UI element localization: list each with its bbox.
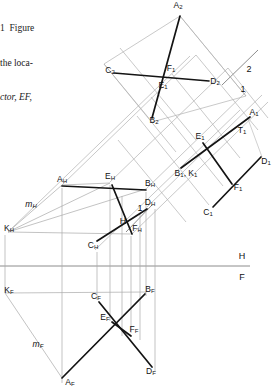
label-kh: KH	[4, 224, 14, 235]
fold-label-1-lower: 1	[137, 204, 142, 213]
label-c2: C2	[105, 66, 114, 77]
fold-line-21	[222, 50, 258, 85]
label-bh: BH	[145, 179, 155, 190]
label-dh: DH	[145, 198, 155, 209]
label-a1: A1	[249, 108, 258, 119]
construction-link-aux1	[248, 119, 262, 157]
label-e1-view2: E1	[158, 81, 167, 92]
label-mf: mF	[33, 340, 44, 351]
label-b2: B2	[149, 116, 158, 127]
object-lines-f	[62, 294, 152, 378]
label-cf: CF	[91, 292, 101, 303]
label-c1: C1	[203, 208, 212, 219]
construction-grid-aux	[104, 16, 268, 222]
fold-label-2: 2	[246, 65, 251, 74]
label-a2: A2	[173, 1, 182, 12]
label-eh: EH	[105, 172, 115, 183]
label-t1: T1	[238, 126, 247, 137]
projector-lines-h-to-aux1	[8, 55, 268, 250]
fold-label-f-hf: F	[239, 273, 245, 282]
label-ah: AH	[57, 175, 67, 186]
line-ab-h	[62, 186, 146, 190]
label-e1: E1	[195, 132, 204, 143]
label-f1-view2: F1	[167, 64, 176, 75]
label-f1: F1	[234, 183, 243, 194]
label-ch: CH	[88, 241, 98, 252]
label-ef: EF	[100, 313, 109, 324]
object-lines-view2	[114, 16, 209, 118]
descriptive-geometry-figure: 1 Figure the loca- ctor, EF,	[0, 0, 274, 389]
label-d1: D1	[261, 157, 270, 168]
line-ef-f	[112, 322, 131, 336]
label-fh: FH	[132, 224, 142, 235]
fold-label-1-upper: 1	[240, 85, 245, 94]
label-ff: FF	[130, 325, 139, 336]
label-mh: mH	[25, 200, 36, 211]
fold-label-h-upper: H	[120, 217, 127, 226]
label-af: AF	[65, 378, 74, 389]
label-kf: KF	[4, 286, 13, 297]
fold-label-h-hf: H	[239, 252, 246, 261]
label-df: DF	[146, 367, 156, 378]
label-b1-k1: B1, K1	[175, 169, 198, 180]
label-bf: BF	[145, 285, 154, 296]
label-d2: D2	[210, 77, 219, 88]
line-ef-aux1	[203, 143, 232, 184]
